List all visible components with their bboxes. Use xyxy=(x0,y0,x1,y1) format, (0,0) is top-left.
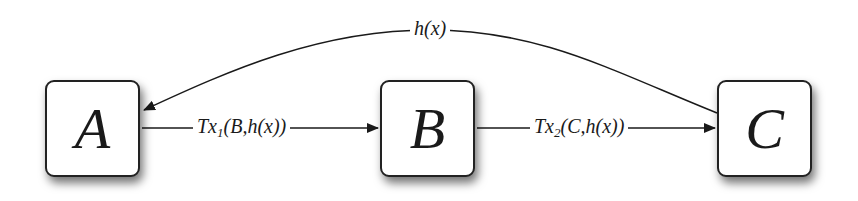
edge-c-to-a-label: h(x) xyxy=(410,17,450,40)
edge-label-main: Tx xyxy=(534,115,554,137)
edge-label: h(x) xyxy=(414,17,446,39)
edge-label-main: Tx xyxy=(197,115,217,137)
edge-label-args: (B,h(x)) xyxy=(224,115,287,137)
node-c-label: C xyxy=(745,100,784,158)
edge-a-to-b-label: Tx1(B,h(x)) xyxy=(193,115,290,141)
edge-b-to-c-label: Tx2(C,h(x)) xyxy=(530,115,628,141)
node-a: A xyxy=(45,80,140,177)
diagram-canvas: A B C Tx1(B,h(x)) Tx2(C,h(x)) h(x) xyxy=(0,0,858,201)
node-b-label: B xyxy=(410,100,445,158)
edge-label-args: (C,h(x)) xyxy=(561,115,625,137)
node-b: B xyxy=(380,80,475,177)
node-c: C xyxy=(717,80,812,177)
node-a-label: A xyxy=(75,100,110,158)
